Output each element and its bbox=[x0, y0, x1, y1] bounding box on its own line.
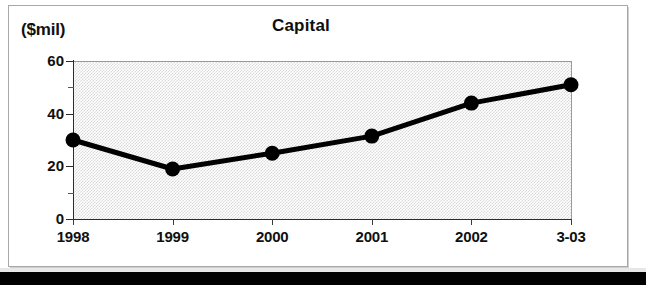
data-point-marker bbox=[265, 146, 280, 161]
series-polyline bbox=[73, 85, 571, 169]
chart-canvas: ($mil) Capital 0204060 19981999200020012… bbox=[9, 6, 629, 268]
figure-frame: ($mil) Capital 0204060 19981999200020012… bbox=[8, 5, 628, 267]
data-point-marker bbox=[364, 129, 379, 144]
data-point-marker bbox=[165, 162, 180, 177]
page-bottom-bar bbox=[0, 272, 646, 285]
capital-line-series bbox=[9, 6, 629, 268]
data-point-marker bbox=[564, 77, 579, 92]
data-point-marker bbox=[464, 96, 479, 111]
data-point-marker bbox=[66, 133, 81, 148]
